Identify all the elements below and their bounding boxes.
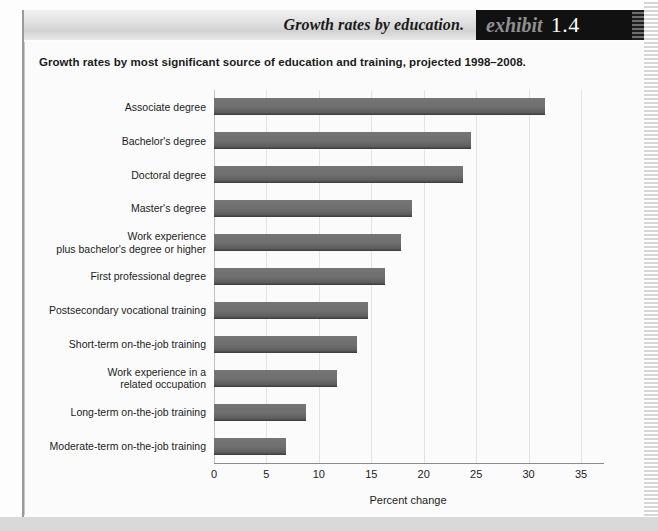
x-axis-title: Percent change: [214, 494, 602, 506]
bar: [214, 200, 412, 217]
page-bottom-band: [0, 517, 658, 531]
chart-row: Associate degree: [214, 90, 602, 124]
category-label: Associate degree: [0, 101, 206, 114]
bar: [214, 166, 463, 183]
category-label: Work experience in a related occupation: [0, 366, 206, 391]
bar: [214, 302, 368, 319]
chart-row: Work experience plus bachelor's degree o…: [214, 226, 602, 260]
category-label: Master's degree: [0, 202, 206, 215]
chart-row: Long-term on-the-job training: [214, 395, 602, 429]
bar: [214, 404, 306, 421]
bar: [214, 234, 401, 251]
x-tick-label: 30: [509, 468, 549, 480]
chart-row: Doctoral degree: [214, 158, 602, 192]
exhibit-badge: exhibit 1.4: [476, 10, 644, 40]
chart-row: Postsecondary vocational training: [214, 293, 602, 327]
category-label: Bachelor's degree: [0, 135, 206, 148]
chart-row: Work experience in a related occupation: [214, 361, 602, 395]
x-tick-label: 5: [246, 468, 286, 480]
category-label: First professional degree: [0, 270, 206, 283]
bar: [214, 336, 357, 353]
category-label: Moderate-term on-the-job training: [0, 440, 206, 453]
category-label: Doctoral degree: [0, 169, 206, 182]
page-edge-stripes: [644, 0, 658, 531]
x-tick-label: 15: [351, 468, 391, 480]
bar: [214, 132, 471, 149]
category-label: Short-term on-the-job training: [0, 338, 206, 351]
chart-row: Short-term on-the-job training: [214, 327, 602, 361]
exhibit-badge-number: 1.4: [551, 14, 580, 36]
x-tick-label: 20: [404, 468, 444, 480]
bar-chart: Associate degreeBachelor's degreeDoctora…: [25, 42, 645, 515]
category-label: Long-term on-the-job training: [0, 406, 206, 419]
x-axis-line: [214, 463, 604, 464]
exhibit-badge-word: exhibit: [486, 15, 543, 35]
category-label: Postsecondary vocational training: [0, 304, 206, 317]
x-tick-label: 10: [299, 468, 339, 480]
bar: [214, 370, 337, 387]
x-tick-label: 35: [561, 468, 601, 480]
exhibit-badge-stripes: [632, 10, 644, 40]
chart-row: Moderate-term on-the-job training: [214, 429, 602, 463]
x-tick-label: 0: [194, 468, 234, 480]
exhibit-page: Growth rates by education. exhibit 1.4 G…: [0, 0, 658, 531]
bar: [214, 98, 545, 115]
chart-row: First professional degree: [214, 260, 602, 294]
bar: [214, 268, 385, 285]
chart-row: Master's degree: [214, 192, 602, 226]
plot-area: Associate degreeBachelor's degreeDoctora…: [214, 90, 602, 463]
exhibit-header: Growth rates by education. exhibit 1.4: [24, 10, 644, 40]
bar: [214, 438, 286, 455]
chart-row: Bachelor's degree: [214, 124, 602, 158]
category-label: Work experience plus bachelor's degree o…: [0, 230, 206, 255]
exhibit-title: Growth rates by education.: [284, 16, 464, 34]
exhibit-card: Growth rates by most significant source …: [24, 42, 644, 515]
x-tick-label: 25: [456, 468, 496, 480]
